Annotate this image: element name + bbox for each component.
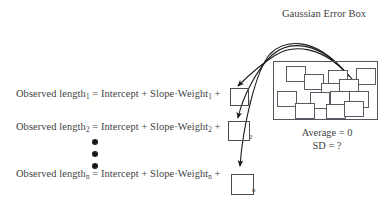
residual-box-1 [230,88,249,106]
equation-line-n: Observed lengthn = Intercept + Slope·Wei… [16,168,221,181]
error-ticket [357,69,376,85]
residual-box-1-label: 1 [248,98,252,106]
residual-box-2 [228,121,250,141]
equation-1-text: Observed length [16,88,86,99]
equation-2-suffix: + [212,121,221,132]
equation-n-body: = Intercept + Slope·Weight [90,168,209,179]
vertical-ellipsis [92,139,101,175]
ellipsis-dot [92,139,98,145]
sd-label: SD = ? [272,140,382,151]
equation-2-body: = Intercept + Slope·Weight [90,121,209,132]
equation-n-text: Observed length [16,168,86,179]
error-ticket [345,102,364,117]
equation-1-suffix: + [212,88,221,99]
error-ticket [305,75,324,90]
error-ticket [327,105,346,119]
equation-n-suffix: + [212,168,221,179]
residual-box-n [231,174,254,195]
equation-2-text: Observed length [16,121,86,132]
average-label: Average = 0 [272,127,382,138]
residual-box-n-label: n [252,186,256,194]
ellipsis-dot [92,163,98,169]
error-ticket-group [278,67,376,119]
equation-1-body: = Intercept + Slope·Weight [90,88,209,99]
equation-line-1: Observed length1 = Intercept + Slope·Wei… [16,88,221,101]
error-ticket [296,104,315,119]
error-ticket [287,67,306,82]
residual-box-2-label: 2 [249,133,253,141]
page-title: Gaussian Error Box [264,8,384,19]
error-ticket [278,92,297,107]
ellipsis-dot [92,151,98,157]
equation-line-2: Observed length2 = Intercept + Slope·Wei… [16,121,221,134]
